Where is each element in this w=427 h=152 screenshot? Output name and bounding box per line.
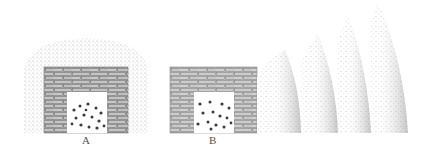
panel-a [24,38,148,133]
radiating-arcs [257,2,408,133]
panel-b-label: B [209,134,216,146]
panel-b [170,2,408,133]
panel-a-label: A [82,134,90,146]
diagram-canvas [0,0,427,152]
